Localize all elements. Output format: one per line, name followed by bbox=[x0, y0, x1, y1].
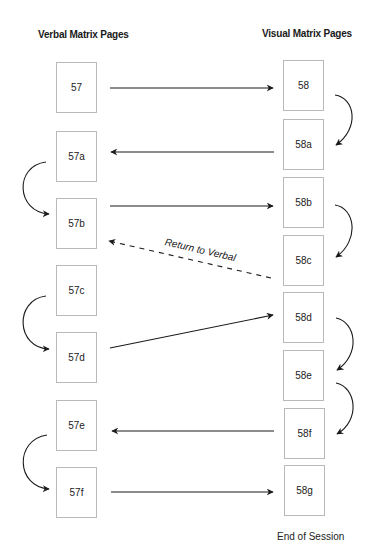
arrow-57d-to-58d bbox=[110, 315, 273, 348]
arrow-57e-to-57f bbox=[23, 435, 49, 489]
arrow-58d-to-58e bbox=[336, 318, 353, 370]
arrow-57c-to-57d bbox=[23, 296, 49, 349]
arrow-58e-to-58f bbox=[336, 383, 353, 434]
arrow-57a-to-57b bbox=[23, 162, 49, 214]
flow-arrows bbox=[0, 0, 381, 558]
arrow-58b-to-58c bbox=[335, 205, 352, 257]
end-of-session-label: End of Session bbox=[277, 531, 344, 542]
arrow-58-to-58a bbox=[335, 95, 352, 145]
